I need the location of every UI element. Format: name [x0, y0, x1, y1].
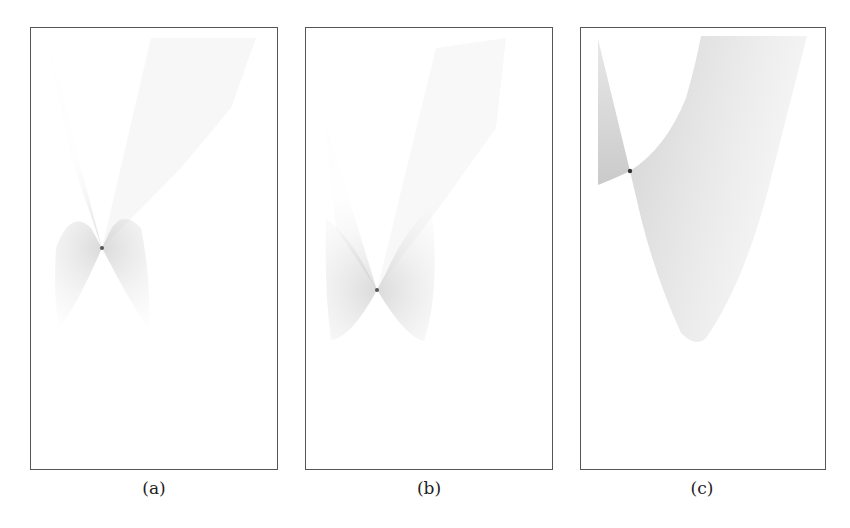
caustic-plot-a — [31, 28, 278, 470]
panel-b — [305, 27, 553, 470]
caustic-point — [375, 288, 379, 292]
lower-left-lobe — [55, 221, 102, 326]
upper-right-fan — [102, 38, 256, 248]
upper-left-fan — [49, 46, 102, 248]
left-spike — [598, 39, 630, 185]
caustic-point — [628, 169, 632, 173]
caustic-plot-b — [306, 28, 553, 470]
caption-b: (b) — [399, 478, 459, 498]
caustic-point — [100, 246, 104, 250]
lower-right-lobe — [102, 219, 149, 326]
right-fan — [630, 36, 807, 342]
caption-c: (c) — [672, 478, 732, 498]
panel-a — [30, 27, 278, 470]
caption-a: (a) — [124, 478, 184, 498]
caustic-plot-c — [581, 28, 826, 470]
panel-c — [580, 27, 826, 470]
